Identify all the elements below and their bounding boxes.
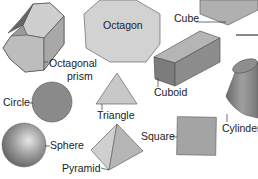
label-octagonal-prism-line2: prism: [67, 71, 93, 82]
label-sphere: Sphere: [50, 140, 84, 151]
cube-shape: [200, 0, 258, 25]
cylinder-shape: [226, 56, 258, 118]
label-octagon: Octagon: [103, 20, 143, 31]
square-shape: [177, 117, 217, 156]
circle-shape: [32, 82, 72, 122]
label-triangle: Triangle: [97, 110, 135, 121]
cuboid-shape: [154, 31, 220, 86]
triangle-shape: [96, 73, 137, 104]
label-pyramid: Pyramid: [62, 163, 101, 174]
label-square: Square: [141, 131, 175, 142]
sphere-shape: [2, 123, 46, 167]
label-octagonal-prism-line1: Octagonal: [49, 58, 97, 69]
label-cuboid: Cuboid: [154, 87, 187, 98]
label-cube: Cube: [174, 13, 199, 24]
label-cylinder: Cylinder: [222, 123, 258, 134]
octagon-shape: [84, 0, 160, 62]
label-circle: Circle: [3, 97, 30, 108]
